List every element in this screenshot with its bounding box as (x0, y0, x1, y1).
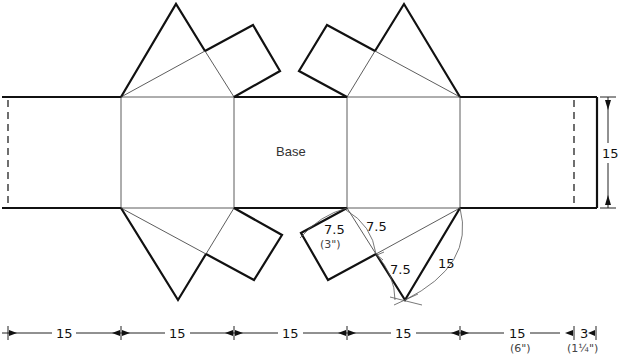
dim-label-4: 15 (395, 326, 412, 341)
label-square-inches: (3") (320, 238, 341, 251)
flap-top-left (121, 4, 280, 97)
pattern-diagram: 7.5 (3") 7.5 7.5 15 Base 15 (0, 0, 619, 357)
flap-top-right (299, 4, 460, 97)
label-half-lower: 7.5 (390, 262, 411, 277)
dim-label-2: 15 (169, 326, 186, 341)
label-square-side: 7.5 (324, 222, 345, 237)
base-label: Base (276, 144, 306, 159)
flap-bottom-left (121, 208, 282, 300)
label-triangle-side: 15 (438, 256, 455, 271)
dim-label-6: 3 (580, 326, 588, 341)
dim-label-3: 15 (282, 326, 299, 341)
label-half-upper: 7.5 (366, 219, 387, 234)
dim-label-1: 15 (56, 326, 73, 341)
dim-label-5: 15 (509, 326, 526, 341)
bottom-dimensions: 15 15 15 15 15 (6") 3 (1¼") (2, 326, 598, 355)
dim-sub-6: (1¼") (567, 342, 598, 355)
right-dim-label: 15 (602, 146, 619, 161)
arc-lower (376, 254, 395, 300)
dim-sub-5: (6") (510, 342, 531, 355)
flap-bottom-right: 7.5 (3") 7.5 7.5 15 (300, 208, 463, 305)
right-dimension: 15 (600, 97, 619, 208)
